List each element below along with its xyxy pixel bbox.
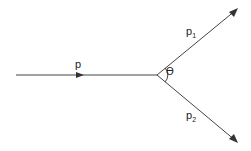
label-p1-sub: 1 <box>192 32 196 39</box>
angle-label: ϴ <box>166 67 174 77</box>
outgoing-momentum-1-label: p1 <box>186 26 196 37</box>
label-p: p <box>75 58 81 70</box>
outgoing-2-arrowhead-icon <box>229 134 238 143</box>
decay-diagram: p p1 p2 ϴ <box>0 0 251 151</box>
incoming-momentum-label: p <box>75 59 81 70</box>
outgoing-momentum-2-label: p2 <box>186 110 196 121</box>
label-theta: ϴ <box>166 66 174 77</box>
outgoing-momentum-2-line <box>157 75 236 141</box>
label-p2-sub: 2 <box>192 116 196 123</box>
diagram-lines <box>0 0 251 151</box>
outgoing-1-arrowhead-icon <box>229 8 238 17</box>
incoming-arrow-icon <box>76 72 84 78</box>
